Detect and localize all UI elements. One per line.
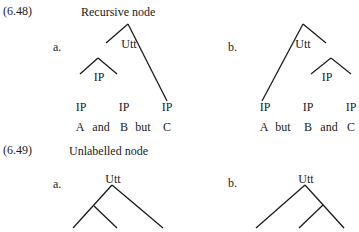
subexample-label-b: b.	[228, 177, 237, 189]
subexample-label-a: a.	[53, 41, 61, 53]
word: A	[260, 121, 269, 133]
node-ip: IP	[260, 101, 271, 113]
word: and	[320, 121, 337, 133]
node-ip: IP	[76, 101, 87, 113]
node-root: Utt	[295, 38, 310, 50]
node-ip: IP	[303, 101, 314, 113]
word: A	[76, 121, 85, 133]
word: and	[92, 121, 109, 133]
example-number: (6.48)	[3, 5, 32, 17]
node-ip: IP	[119, 101, 130, 113]
node-ip: IP	[94, 71, 105, 83]
example-title: Recursive node	[81, 6, 155, 18]
node-root: Utt	[105, 173, 120, 185]
subexample-label-a: a.	[53, 178, 61, 190]
word: B	[120, 121, 128, 133]
word: B	[304, 121, 312, 133]
word: but	[275, 121, 290, 133]
node-ip: IP	[162, 101, 173, 113]
example-number: (6.49)	[3, 144, 32, 156]
word: but	[135, 121, 150, 133]
word: C	[163, 121, 171, 133]
example-title: Unlabelled node	[69, 145, 148, 157]
word: C	[347, 121, 355, 133]
subexample-label-b: b.	[228, 41, 237, 53]
node-ip: IP	[346, 101, 357, 113]
node-ip: IP	[322, 71, 333, 83]
node-root: Utt	[121, 38, 136, 50]
tree-branches	[0, 0, 359, 232]
node-root: Utt	[298, 173, 313, 185]
